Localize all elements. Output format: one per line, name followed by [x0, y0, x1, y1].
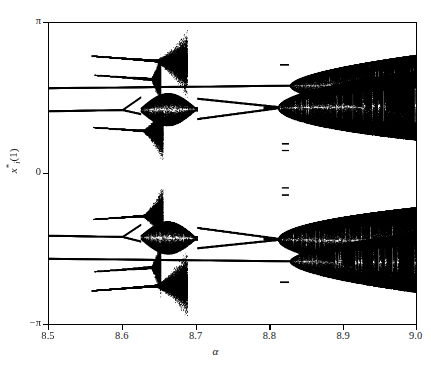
y-tick-label-neg-pi: −π — [11, 317, 41, 328]
x-tick-label-5: 9.0 — [399, 330, 431, 341]
x-tick-label-4: 8.9 — [326, 330, 360, 341]
y-tick-mark — [43, 324, 48, 325]
bifurcation-figure: 8.5 8.6 8.7 8.8 8.9 9.0 π 0 −π α x*i(1) — [0, 0, 431, 373]
y-axis-title-base: x — [7, 168, 19, 173]
y-axis-title: x*i(1) — [4, 126, 22, 196]
x-tick-label-0: 8.5 — [31, 330, 65, 341]
y-tick-label-pi: π — [11, 15, 41, 26]
x-axis-title: α — [0, 345, 431, 357]
y-tick-mark — [43, 173, 48, 174]
plot-area — [48, 22, 417, 325]
x-tick-label-2: 8.7 — [179, 330, 213, 341]
y-axis-title-argument: (1) — [7, 149, 19, 162]
y-axis-title-star: * — [4, 164, 14, 169]
bifurcation-plot-canvas — [49, 23, 416, 324]
x-tick-label-3: 8.8 — [252, 330, 286, 341]
x-tick-label-1: 8.6 — [105, 330, 139, 341]
y-tick-mark — [43, 22, 48, 23]
